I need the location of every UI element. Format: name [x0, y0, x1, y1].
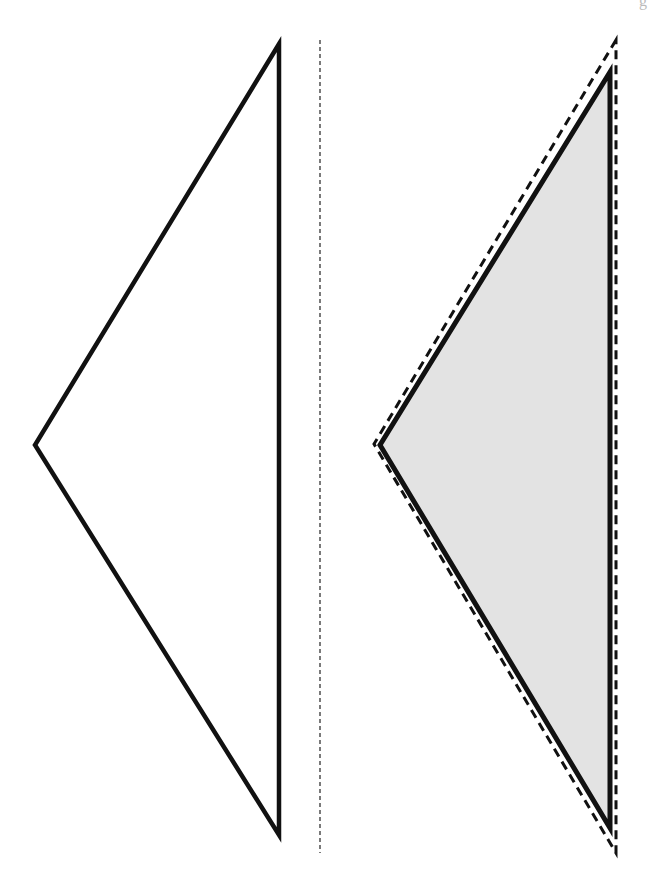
- diagram-canvas: [0, 0, 655, 891]
- right-triangle-filled: [380, 72, 610, 828]
- left-triangle: [35, 44, 279, 835]
